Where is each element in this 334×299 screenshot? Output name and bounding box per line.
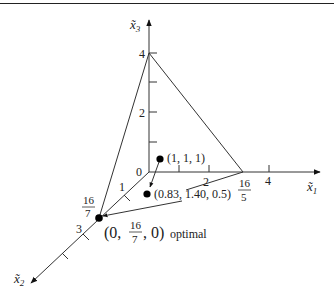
x3-axis-label: x̃3 (129, 17, 141, 34)
svg-text:7: 7 (132, 233, 138, 245)
x1-tick-4: 4 (265, 174, 271, 188)
point-start (156, 155, 163, 162)
step-arrow-2 (103, 201, 182, 216)
point-intermediate (143, 190, 150, 197)
x2-tick-3: 3 (76, 222, 82, 236)
x1-vertex-fraction: 16 5 (238, 177, 251, 203)
point-optimal (95, 214, 103, 222)
lp-feasible-region-diagram: x̃3 x̃1 x̃2 4 2 0 2 4 1 3 16 5 16 7 (1, … (0, 0, 334, 299)
step-arrow-1 (150, 162, 159, 187)
point-start-label: (1, 1, 1) (167, 151, 205, 165)
svg-text:16: 16 (83, 194, 95, 206)
x2-vertex-fraction: 16 7 (82, 194, 95, 219)
svg-text:, 0): , 0) (143, 224, 164, 242)
x3-ticks (149, 53, 157, 142)
x2-axis-label: x̃2 (13, 271, 25, 288)
origin-label: 0 (136, 165, 142, 179)
svg-text:optimal: optimal (170, 227, 207, 241)
x1-ticks (179, 165, 269, 172)
x3-tick-2: 2 (139, 106, 145, 120)
svg-text:5: 5 (241, 191, 247, 203)
point-optimal-label: (0, 16 7 , 0) optimal (104, 219, 207, 245)
x3-tick-4: 4 (139, 47, 145, 61)
svg-text:(0,: (0, (104, 224, 121, 242)
x1-axis-label: x̃1 (306, 179, 317, 196)
point-intermediate-label: (0.83, 1.40, 0.5) (154, 187, 231, 201)
x2-tick-1: 1 (119, 180, 125, 194)
svg-text:16: 16 (130, 219, 142, 231)
svg-text:16: 16 (239, 177, 251, 189)
svg-text:7: 7 (85, 207, 91, 219)
